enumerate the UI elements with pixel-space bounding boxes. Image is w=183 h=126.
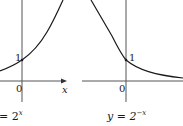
- right-point-0-1: [125, 59, 128, 62]
- right-caption-exponent: −x: [136, 109, 146, 117]
- left-origin-label: 0: [16, 84, 22, 94]
- graphs-canvas: [0, 0, 183, 126]
- left-x-arrow-icon: [61, 79, 67, 84]
- left-curve: [0, 0, 63, 71]
- right-origin-label: 0: [119, 84, 125, 94]
- left-caption-base: = 2: [0, 110, 19, 123]
- right-caption: y = 2−x: [107, 110, 146, 122]
- left-graph: [0, 0, 67, 102]
- right-point-label: 1: [129, 53, 135, 63]
- right-caption-base: y = 2: [107, 110, 136, 123]
- left-caption-exponent: x: [19, 109, 23, 117]
- left-point-label: 1: [15, 53, 21, 63]
- right-graph: [82, 0, 183, 102]
- left-x-axis-label: x: [62, 85, 68, 95]
- right-curve: [91, 0, 183, 78]
- left-caption: = 2x: [0, 110, 23, 122]
